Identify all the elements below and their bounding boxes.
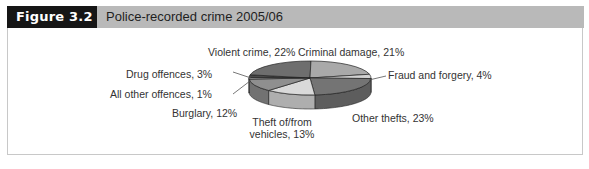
label-vehicles-line2: vehicles, 13% xyxy=(250,128,315,140)
label-fraud: Fraud and forgery, 4% xyxy=(388,69,492,81)
pie-slice-violent-crime xyxy=(250,61,311,78)
label-burglary: Burglary, 12% xyxy=(172,107,237,119)
pie-top xyxy=(249,61,371,95)
label-drug: Drug offences, 3% xyxy=(126,68,212,80)
label-violent-crime: Violent crime, 22% xyxy=(208,46,295,58)
label-criminal-damage: Criminal damage, 21% xyxy=(298,46,404,58)
label-vehicles-line1: Theft of/from xyxy=(252,116,312,128)
pie-chart: Violent crime, 22% Criminal damage, 21% … xyxy=(0,0,589,169)
leader-all-other xyxy=(233,81,250,94)
label-all-other: All other offences, 1% xyxy=(110,88,212,100)
leader-fraud xyxy=(369,76,386,80)
leader-drug xyxy=(233,72,251,78)
label-other-thefts: Other thefts, 23% xyxy=(352,112,434,124)
